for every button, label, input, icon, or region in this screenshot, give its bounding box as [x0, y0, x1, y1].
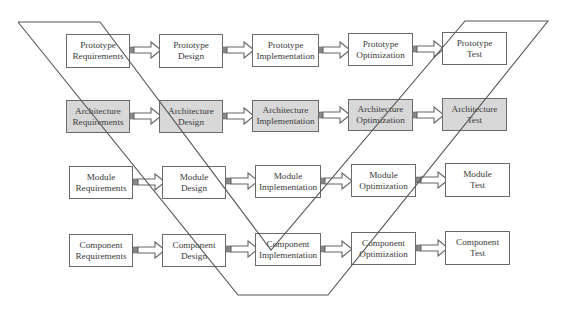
arrow-icon — [133, 242, 165, 258]
box-label: Optimization — [356, 50, 404, 61]
arrow-icon — [320, 173, 352, 189]
box-label: Implementation — [259, 182, 317, 193]
box-label: Prototype — [72, 40, 123, 51]
prototype-optimization-box: PrototypeOptimization — [348, 33, 413, 66]
module-design-box: ModuleDesign — [162, 166, 226, 199]
box-label: Design — [173, 251, 216, 262]
box-label: Architecture — [256, 105, 314, 116]
box-label: Component — [173, 240, 216, 251]
component-design-box: ComponentDesign — [162, 234, 226, 267]
prototype-requirements-box: PrototypeRequirements — [66, 34, 130, 68]
box-label: Component — [456, 237, 499, 248]
box-label: Architecture — [72, 106, 123, 117]
architecture-requirements-box: ArchitectureRequirements — [66, 100, 130, 133]
box-label: Optimization — [359, 181, 407, 192]
architecture-design-box: ArchitectureDesign — [159, 100, 223, 133]
box-label: Implementation — [256, 51, 314, 62]
box-label: Prototype — [356, 39, 404, 50]
box-label: Test — [463, 180, 492, 191]
box-label: Module — [259, 171, 317, 182]
box-label: Component — [259, 239, 317, 250]
arrow-icon — [222, 108, 254, 124]
prototype-test-box: PrototypeTest — [442, 32, 507, 65]
box-label: Prototype — [457, 38, 493, 49]
arrow-icon — [318, 42, 350, 58]
architecture-test-box: ArchitectureTest — [442, 98, 507, 131]
box-label: Design — [180, 183, 209, 194]
box-label: Module — [180, 172, 209, 183]
arrow-icon — [129, 42, 161, 58]
module-requirements-box: ModuleRequirements — [69, 166, 133, 199]
arrow-icon — [226, 173, 258, 189]
box-label: Architecture — [168, 106, 214, 117]
v-model-diagram: PrototypeRequirements PrototypeDesign Pr… — [0, 0, 565, 309]
box-label: Module — [75, 172, 126, 183]
architecture-implementation-box: ArchitectureImplementation — [252, 100, 319, 132]
box-label: Architecture — [452, 104, 498, 115]
box-label: Module — [463, 169, 492, 180]
box-label: Architecture — [356, 104, 404, 115]
module-test-box: ModuleTest — [445, 163, 510, 197]
box-label: Requirements — [75, 251, 126, 262]
arrow-icon — [133, 174, 165, 190]
box-label: Prototype — [173, 40, 209, 51]
architecture-optimization-box: ArchitectureOptimization — [348, 99, 413, 131]
box-label: Implementation — [259, 250, 317, 261]
component-implementation-box: ComponentImplementation — [255, 233, 321, 266]
box-label: Component — [359, 238, 407, 249]
box-label: Requirements — [75, 183, 126, 194]
box-label: Prototype — [256, 40, 314, 51]
arrow-icon — [222, 42, 254, 58]
arrow-icon — [416, 240, 448, 256]
arrow-icon — [416, 172, 448, 188]
arrow-icon — [226, 241, 258, 257]
box-label: Test — [457, 49, 493, 60]
box-label: Test — [456, 248, 499, 259]
box-label: Design — [173, 51, 209, 62]
module-implementation-box: ModuleImplementation — [255, 165, 321, 198]
prototype-implementation-box: PrototypeImplementation — [252, 34, 319, 67]
component-optimization-box: ComponentOptimization — [351, 232, 416, 265]
arrow-icon — [320, 241, 352, 257]
box-label: Implementation — [256, 116, 314, 127]
module-optimization-box: ModuleOptimization — [351, 164, 416, 197]
box-label: Optimization — [359, 249, 407, 260]
box-label: Test — [452, 115, 498, 126]
box-label: Component — [75, 240, 126, 251]
box-label: Optimization — [356, 115, 404, 126]
prototype-design-box: PrototypeDesign — [159, 34, 223, 68]
arrow-icon — [318, 107, 350, 123]
component-requirements-box: ComponentRequirements — [69, 234, 133, 267]
box-label: Requirements — [72, 117, 123, 128]
box-label: Design — [168, 117, 214, 128]
arrow-icon — [412, 107, 444, 123]
arrow-icon — [129, 108, 161, 124]
box-label: Requirements — [72, 51, 123, 62]
box-label: Module — [359, 170, 407, 181]
arrow-icon — [412, 41, 444, 57]
component-test-box: ComponentTest — [445, 231, 510, 265]
